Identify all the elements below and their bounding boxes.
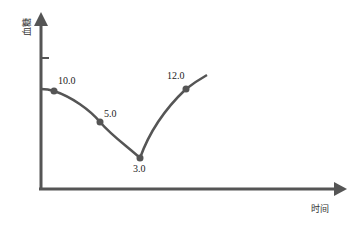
data-point	[137, 155, 144, 162]
x-axis-arrow-icon	[334, 182, 347, 196]
curve-falling	[41, 89, 140, 158]
y-axis-label: 血糖	[21, 18, 32, 36]
curve-rising	[140, 75, 207, 158]
point-label: 12.0	[167, 70, 185, 81]
data-point	[183, 86, 190, 93]
data-point	[97, 119, 104, 126]
point-label: 10.0	[58, 75, 76, 86]
point-label: 5.0	[104, 108, 117, 119]
y-axis-arrow-icon	[34, 12, 48, 26]
line-chart: 10.0 5.0 3.0 12.0 时间 血糖	[0, 0, 363, 228]
data-point	[51, 88, 58, 95]
point-label: 3.0	[133, 163, 146, 174]
x-axis-label: 时间	[311, 203, 329, 214]
